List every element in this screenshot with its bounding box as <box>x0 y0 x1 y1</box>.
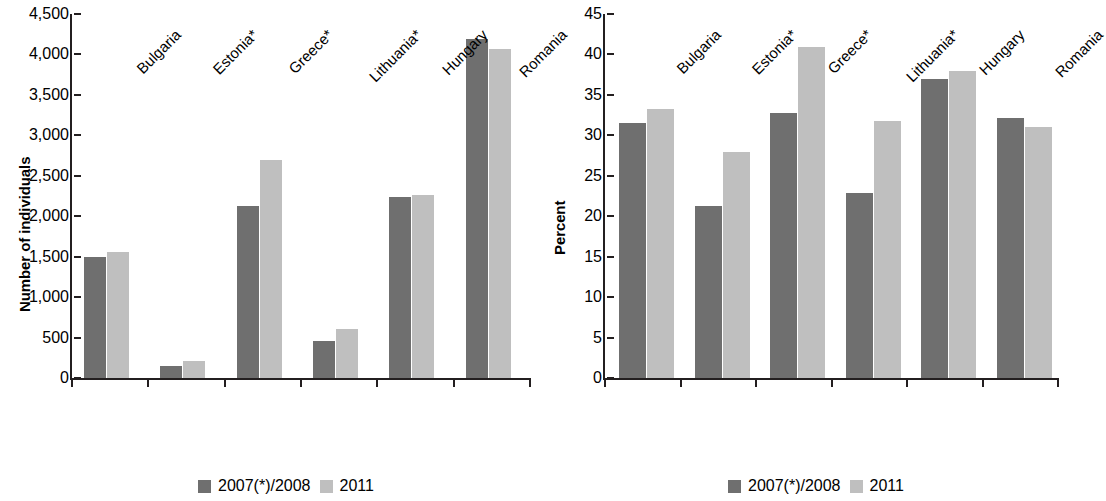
y-axis-tick-mark-right <box>607 53 614 55</box>
y-axis-tick-label-left: 3,500 <box>29 87 74 103</box>
x-axis-tick-right <box>831 378 833 387</box>
y-axis-tick-left: 3,500 <box>29 87 72 103</box>
legend-label: 2011 <box>870 477 904 495</box>
y-axis-tick-label-left: 1,000 <box>29 289 74 305</box>
y-axis-tick-label-left: 4,500 <box>29 6 74 22</box>
y-axis-tick-mark-right <box>607 337 614 339</box>
bar <box>183 361 205 378</box>
bar <box>874 121 901 378</box>
bar <box>389 197 411 378</box>
x-axis-tick-left <box>376 378 378 387</box>
y-axis-tick-label-right: 30 <box>584 127 607 143</box>
bar <box>770 113 797 378</box>
y-axis-tick-mark-right <box>607 94 614 96</box>
x-axis-tick-right <box>906 378 908 387</box>
y-axis-tick-left: 2,000 <box>29 208 72 224</box>
x-axis-tick-left <box>453 378 455 387</box>
y-axis-tick-right: 30 <box>584 127 605 143</box>
y-axis-tick-mark-left <box>74 215 81 217</box>
y-axis-tick-mark-left <box>74 256 81 258</box>
legend-label: 2007(*)/2008 <box>218 477 311 495</box>
x-axis-tick-left <box>300 378 302 387</box>
y-axis-tick-mark-right <box>607 296 614 298</box>
bar <box>412 195 434 378</box>
legend-swatch-icon <box>198 480 211 493</box>
y-axis-tick-label-right: 45 <box>584 6 607 22</box>
bar <box>313 341 335 378</box>
legend-label: 2011 <box>340 477 374 495</box>
chart-panel-right: Percent 051015202530354045BulgariaEstoni… <box>534 0 1068 465</box>
y-axis-tick-mark-left <box>74 13 81 15</box>
bar <box>107 252 129 378</box>
legend-item: 2011 <box>320 477 374 495</box>
x-axis-tick-left <box>147 378 149 387</box>
plot-area-left: 05001,0001,5002,0002,5003,0003,5004,0004… <box>70 14 530 380</box>
y-axis-tick-mark-right <box>607 377 614 379</box>
y-axis-tick-label-left: 500 <box>42 330 74 346</box>
y-axis-tick-mark-left <box>74 377 81 379</box>
y-axis-tick-left: 3,000 <box>29 127 72 143</box>
legend-swatch-icon <box>320 480 333 493</box>
bar <box>695 206 722 378</box>
y-axis-tick-mark-right <box>607 13 614 15</box>
x-axis-tick-right <box>680 378 682 387</box>
y-axis-tick-right: 5 <box>593 330 605 346</box>
bar <box>798 47 825 378</box>
bar <box>260 160 282 378</box>
y-axis-tick-right: 35 <box>584 87 605 103</box>
y-axis-tick-label-left: 2,000 <box>29 208 74 224</box>
legend-swatch-icon <box>728 480 741 493</box>
bar <box>647 109 674 378</box>
bar <box>237 206 259 378</box>
bar <box>489 49 511 378</box>
bar <box>846 193 873 378</box>
legend-right: 2007(*)/20082011 <box>728 477 904 495</box>
y-axis-tick-label-left: 4,000 <box>29 46 74 62</box>
y-axis-tick-right: 25 <box>584 168 605 184</box>
y-axis-tick-left: 1,000 <box>29 289 72 305</box>
legend-item: 2007(*)/2008 <box>198 477 311 495</box>
bar <box>949 71 976 378</box>
y-axis-tick-right: 15 <box>584 249 605 265</box>
legend-label: 2007(*)/2008 <box>748 477 841 495</box>
y-axis-tick-left: 1,500 <box>29 249 72 265</box>
y-axis-tick-label-right: 35 <box>584 87 607 103</box>
y-axis-tick-right: 40 <box>584 46 605 62</box>
y-axis-tick-mark-right <box>607 256 614 258</box>
y-axis-tick-mark-left <box>74 175 81 177</box>
x-axis-tick-left <box>529 378 531 387</box>
x-axis-label-right: Romania <box>1052 26 1106 80</box>
y-axis-tick-label-right: 40 <box>584 46 607 62</box>
y-axis-title-right: Percent <box>551 201 568 255</box>
bar <box>336 329 358 378</box>
y-axis-tick-mark-left <box>74 134 81 136</box>
y-axis-tick-label-left: 1,500 <box>29 249 74 265</box>
legend-item: 2011 <box>850 477 904 495</box>
bar <box>619 123 646 378</box>
x-axis-tick-right <box>1057 378 1059 387</box>
bar <box>997 118 1024 378</box>
legend-swatch-icon <box>850 480 863 493</box>
legend-item: 2007(*)/2008 <box>728 477 841 495</box>
y-axis-tick-label-right: 15 <box>584 249 607 265</box>
y-axis-tick-mark-left <box>74 53 81 55</box>
y-axis-tick-label-left: 3,000 <box>29 127 74 143</box>
y-axis-tick-mark-right <box>607 134 614 136</box>
y-axis-tick-label-left: 2,500 <box>29 168 74 184</box>
y-axis-tick-right: 45 <box>584 6 605 22</box>
y-axis-tick-mark-left <box>74 296 81 298</box>
y-axis-tick-left: 500 <box>42 330 72 346</box>
x-axis-tick-right <box>982 378 984 387</box>
x-axis-tick-right <box>604 378 606 387</box>
plot-area-right: 051015202530354045BulgariaEstonia*Greece… <box>603 14 1058 380</box>
y-axis-tick-right: 10 <box>584 289 605 305</box>
bar <box>160 366 182 378</box>
y-axis-tick-left: 4,500 <box>29 6 72 22</box>
x-axis-tick-left <box>71 378 73 387</box>
y-axis-tick-mark-left <box>74 94 81 96</box>
x-axis-tick-left <box>224 378 226 387</box>
y-axis-tick-label-right: 10 <box>584 289 607 305</box>
y-axis-tick-label-right: 20 <box>584 208 607 224</box>
legend-left: 2007(*)/20082011 <box>198 477 374 495</box>
